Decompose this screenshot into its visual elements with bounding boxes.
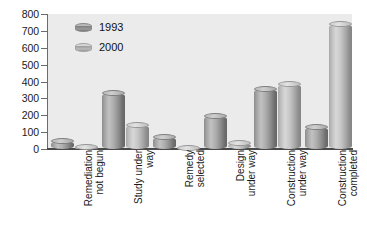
x-axis-label: Remediationnot begun — [83, 150, 99, 224]
x-axis-label: Remedyselected — [184, 150, 200, 224]
bar-2000-5 — [278, 81, 301, 149]
y-axis-tick: 400 — [0, 77, 47, 88]
y-axis: 8007006005004003002001000 — [0, 0, 47, 163]
bar-cap — [102, 90, 125, 96]
bar-2000-2 — [126, 122, 149, 149]
y-axis-tick: 200 — [0, 110, 47, 121]
bar-group — [153, 14, 200, 149]
y-axis-tick: 100 — [0, 127, 47, 138]
bar-body — [126, 125, 149, 149]
y-axis-tick: 800 — [0, 9, 47, 20]
x-axis-label: Study underway — [133, 150, 149, 224]
bar-cap — [126, 122, 149, 128]
bar-group — [305, 14, 352, 149]
x-axis-label-line1: Remedy — [184, 150, 195, 224]
y-axis-tick-label: 400 — [22, 77, 39, 88]
x-axis-label-line1: Construction — [286, 150, 297, 224]
y-axis-tick: 600 — [0, 43, 47, 54]
x-axis-label-line2: completed — [348, 150, 359, 224]
bar-cap — [75, 144, 98, 150]
bar-body — [204, 116, 227, 149]
y-axis-tick-label: 100 — [22, 127, 39, 138]
x-axis-label-line1: Remediation — [83, 150, 94, 224]
bar-cap — [305, 124, 328, 130]
x-axis-label-line1: Study under — [133, 150, 144, 224]
bar-1993-1 — [51, 138, 74, 149]
bar-group — [254, 14, 301, 149]
x-axis-label-line2: under way — [246, 150, 257, 224]
bar-cap — [228, 140, 251, 146]
bar-1993-5 — [254, 86, 277, 149]
bar-chart: 8007006005004003002001000 1993 2000 Reme… — [0, 0, 367, 227]
x-axis-label-line2: not begun — [94, 150, 105, 224]
bar-body — [102, 93, 125, 149]
y-axis-tick-label: 800 — [22, 9, 39, 20]
bar-1993-4 — [204, 113, 227, 149]
x-axis-label-line2: under way — [297, 150, 308, 224]
x-axis-label: Constructioncompleted — [337, 150, 353, 224]
y-axis-tick-label: 600 — [22, 43, 39, 54]
y-axis-tick-label: 500 — [22, 60, 39, 71]
bar-cap — [329, 21, 352, 27]
bar-1993-3 — [153, 134, 176, 149]
bar-1993-2 — [102, 90, 125, 149]
bar-group — [51, 14, 98, 149]
bar-group — [204, 14, 251, 149]
bar-body — [329, 24, 352, 149]
x-axis-label: Designunder way — [235, 150, 251, 224]
x-axis-label-line1: Construction — [337, 150, 348, 224]
y-axis-tick-label: 200 — [22, 110, 39, 121]
bar-group — [102, 14, 149, 149]
bar-2000-4 — [228, 140, 251, 149]
x-axis-label-line2: way — [144, 150, 155, 224]
bar-2000-3 — [177, 145, 200, 149]
y-axis-tick-label: 700 — [22, 26, 39, 37]
x-axis-label-line1: Design — [235, 150, 246, 224]
bar-2000-1 — [75, 144, 98, 149]
x-axis-label-line2: selected — [195, 150, 206, 224]
bar-cap — [51, 138, 74, 144]
bar-body — [278, 84, 301, 149]
bar-cap — [254, 86, 277, 92]
bar-cap — [278, 81, 301, 87]
y-axis-tick: 700 — [0, 26, 47, 37]
bar-body — [305, 127, 328, 149]
y-axis-tick-label: 300 — [22, 93, 39, 104]
y-axis-tick: 500 — [0, 60, 47, 71]
y-axis-tick: 300 — [0, 93, 47, 104]
bar-body — [254, 89, 277, 149]
bar-2000-6 — [329, 21, 352, 149]
x-axis-label: Constructionunder way — [286, 150, 302, 224]
bar-1993-6 — [305, 124, 328, 149]
bar-cap — [153, 134, 176, 140]
x-axis: Remediationnot begunStudy underwayRemedy… — [0, 150, 367, 227]
